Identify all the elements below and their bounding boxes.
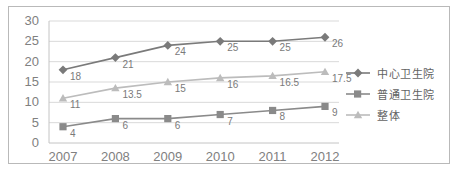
legend-label: 整体 bbox=[377, 107, 400, 123]
data-point-label: 4 bbox=[70, 128, 76, 139]
data-point-marker bbox=[217, 111, 224, 118]
data-point-marker bbox=[112, 115, 119, 122]
legend-marker-diamond-icon bbox=[345, 66, 371, 80]
data-point-marker bbox=[164, 115, 171, 122]
series-line bbox=[63, 106, 325, 126]
y-axis-tick-label: 20 bbox=[13, 54, 39, 69]
data-point-label: 21 bbox=[122, 59, 133, 70]
data-point-label: 24 bbox=[175, 46, 186, 57]
x-axis-tick-label: 2008 bbox=[91, 149, 139, 164]
data-point-marker bbox=[111, 53, 120, 62]
series-1 bbox=[59, 33, 330, 74]
data-point-marker bbox=[321, 33, 330, 42]
legend-item-3[interactable]: 整体 bbox=[345, 105, 400, 125]
y-axis-tick-label: 25 bbox=[13, 33, 39, 48]
data-point-label: 16 bbox=[227, 79, 238, 90]
data-point-label: 26 bbox=[332, 38, 343, 49]
data-point-label: 13.5 bbox=[122, 89, 141, 100]
data-point-label: 7 bbox=[227, 116, 233, 127]
data-point-marker bbox=[269, 107, 276, 114]
legend-marker-triangle-icon bbox=[345, 108, 371, 122]
data-point-label: 25 bbox=[227, 42, 238, 53]
legend-label: 普通卫生院 bbox=[377, 86, 435, 102]
legend-item-2[interactable]: 普通卫生院 bbox=[345, 84, 435, 104]
legend-item-1[interactable]: 中心卫生院 bbox=[345, 63, 435, 83]
y-axis-tick-label: 0 bbox=[13, 135, 39, 150]
data-point-label: 25 bbox=[280, 42, 291, 53]
data-point-marker bbox=[268, 37, 277, 46]
data-point-marker bbox=[321, 103, 328, 110]
x-axis-tick-label: 2010 bbox=[196, 149, 244, 164]
data-point-label: 16.5 bbox=[280, 77, 299, 88]
caption-strip bbox=[0, 170, 459, 186]
data-point-marker bbox=[59, 123, 66, 130]
x-axis-tick-label: 2012 bbox=[301, 149, 349, 164]
x-axis-tick-label: 2007 bbox=[39, 149, 87, 164]
data-point-label: 11 bbox=[70, 99, 80, 110]
y-axis-tick-label: 15 bbox=[13, 74, 39, 89]
chart-frame: 051015202530200720082009201020112012 182… bbox=[8, 6, 450, 164]
y-axis-tick-label: 30 bbox=[13, 13, 39, 28]
data-point-label: 15 bbox=[175, 83, 186, 94]
data-point-marker bbox=[163, 41, 172, 50]
data-point-label: 8 bbox=[280, 111, 286, 122]
legend-marker-square-icon bbox=[345, 87, 371, 101]
legend-label: 中心卫生院 bbox=[377, 65, 435, 81]
data-point-marker bbox=[59, 65, 68, 74]
data-point-label: 9 bbox=[332, 107, 338, 118]
data-point-label: 18 bbox=[70, 71, 81, 82]
x-axis-tick-label: 2011 bbox=[249, 149, 297, 164]
series-2 bbox=[59, 103, 328, 131]
y-axis-tick-label: 10 bbox=[13, 94, 39, 109]
data-point-label: 6 bbox=[175, 120, 181, 131]
y-axis-tick-label: 5 bbox=[13, 115, 39, 130]
data-point-label: 6 bbox=[122, 120, 128, 131]
x-axis-tick-label: 2009 bbox=[144, 149, 192, 164]
data-point-marker bbox=[216, 37, 225, 46]
